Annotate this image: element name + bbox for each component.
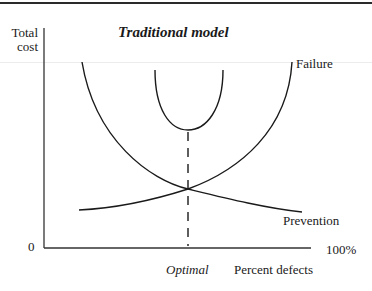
total-cost-curve: [155, 70, 223, 130]
prevention-curve: [82, 62, 302, 212]
prevention-label: Prevention: [283, 214, 339, 228]
failure-label: Failure: [296, 57, 333, 71]
origin-zero-label: 0: [28, 240, 35, 254]
optimal-label: Optimal: [166, 263, 209, 277]
x-axis-end-label: 100%: [326, 243, 356, 257]
x-axis-label: Percent defects: [234, 263, 313, 277]
cost-curves-plot: [0, 0, 372, 291]
